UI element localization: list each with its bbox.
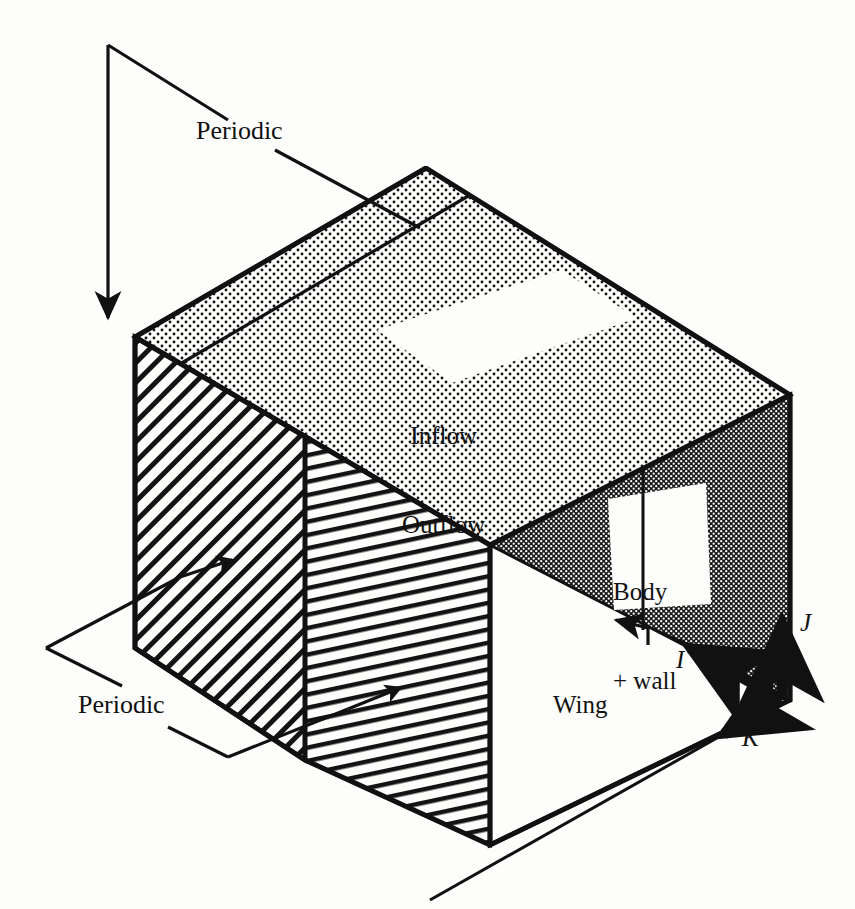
label-body: Body — [613, 577, 676, 607]
label-wall: + wall — [613, 666, 676, 696]
label-axis-i: I — [676, 645, 684, 675]
label-axis-k: K — [742, 723, 759, 753]
label-inflow-outflow: Inflow Outflow — [402, 362, 485, 598]
label-wing: Wing — [553, 690, 608, 720]
label-inflow: Inflow — [402, 421, 485, 451]
label-outflow: Outflow — [402, 510, 485, 540]
label-periodic-top: Periodic — [196, 116, 283, 147]
label-periodic-bottom: Periodic — [78, 690, 165, 721]
label-body-wall: Body + wall — [613, 518, 676, 754]
figure-canvas: Periodic Periodic Inflow Outflow Body + … — [0, 0, 855, 909]
label-axis-j: J — [800, 608, 811, 638]
